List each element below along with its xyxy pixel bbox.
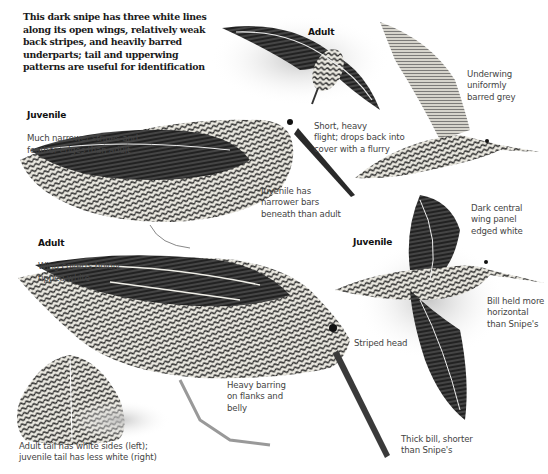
- label-wing-panel: Dark central wing panel edged white: [471, 203, 523, 237]
- label-tail: Adult tail has white sides (left); juven…: [19, 441, 157, 464]
- label-adult-flying: Adult: [308, 27, 334, 38]
- label-flight: Short, heavy flight; drops back into cov…: [314, 121, 405, 155]
- intro-text: This dark snipe has three white lines al…: [23, 11, 223, 74]
- label-text: Wing coverts boldly tipped white: [38, 261, 120, 282]
- label-striped-head: Striped head: [354, 338, 407, 349]
- label-text: Much narrower stripes and feather edges …: [27, 133, 138, 154]
- label-thick-bill: Thick bill, shorter than Snipe's: [401, 434, 473, 457]
- label-adult-standing: Adult Wing coverts boldly tipped white: [38, 227, 120, 284]
- label-heading: Adult: [38, 238, 120, 249]
- label-bill-horizontal: Bill held more horizontal than Snipe's: [487, 296, 544, 330]
- label-juvenile-flying: Juvenile: [353, 237, 392, 248]
- adult-flying-snipe: [210, 15, 390, 110]
- label-barring: Heavy barring on flanks and belly: [227, 380, 286, 414]
- label-juvenile-standing: Juvenile Much narrower stripes and feath…: [27, 99, 138, 156]
- label-heading: Juvenile: [27, 110, 138, 121]
- label-underwing: Underwing uniformly barred grey: [467, 69, 515, 103]
- label-juvenile-bars: Juvenile has narrower bars beneath than …: [261, 186, 341, 220]
